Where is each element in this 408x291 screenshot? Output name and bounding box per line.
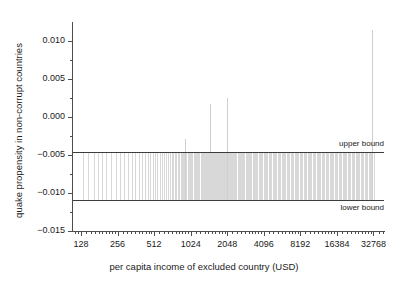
spike-line bbox=[142, 152, 143, 200]
x-minor-tick-mark bbox=[127, 231, 128, 234]
x-minor-tick-mark bbox=[86, 231, 87, 234]
spike-line bbox=[83, 152, 84, 200]
spike-line bbox=[128, 152, 129, 200]
x-minor-tick-mark bbox=[91, 231, 92, 234]
x-tick-mark bbox=[373, 231, 374, 236]
x-minor-tick-mark bbox=[176, 231, 177, 234]
x-minor-tick-mark bbox=[225, 231, 226, 234]
y-tick-label: −0.010 bbox=[37, 187, 65, 197]
x-tick-mark bbox=[227, 231, 228, 236]
x-minor-tick-mark bbox=[358, 231, 359, 234]
x-minor-tick-mark bbox=[135, 231, 136, 234]
x-minor-tick-mark bbox=[95, 231, 96, 234]
upper-bound-label: upper bound bbox=[339, 139, 384, 148]
x-minor-tick-mark bbox=[325, 231, 326, 234]
x-minor-tick-mark bbox=[102, 231, 103, 234]
spike-line bbox=[162, 152, 163, 200]
x-minor-tick-mark bbox=[159, 231, 160, 234]
x-minor-tick-mark bbox=[314, 231, 315, 234]
spike-line bbox=[164, 152, 165, 200]
x-minor-tick-mark bbox=[200, 231, 201, 234]
x-minor-tick-mark bbox=[379, 231, 380, 234]
lower-bound-line bbox=[73, 200, 384, 201]
x-minor-tick-mark bbox=[334, 231, 335, 234]
x-tick-mark bbox=[154, 231, 155, 236]
spike-line bbox=[148, 152, 149, 200]
spike-line bbox=[106, 152, 107, 200]
spike-line bbox=[155, 152, 156, 200]
x-axis-title: per capita income of excluded country (U… bbox=[0, 261, 408, 272]
x-minor-tick-mark bbox=[146, 231, 147, 234]
spike-line bbox=[160, 152, 161, 200]
x-minor-tick-mark bbox=[351, 231, 352, 234]
spike-line bbox=[132, 152, 133, 200]
x-minor-tick-mark bbox=[285, 231, 286, 234]
x-minor-tick-mark bbox=[232, 231, 233, 234]
x-minor-tick-mark bbox=[282, 231, 283, 234]
x-minor-tick-mark bbox=[289, 231, 290, 234]
x-minor-tick-mark bbox=[245, 231, 246, 234]
x-minor-tick-mark bbox=[149, 231, 150, 234]
spike-line bbox=[168, 152, 169, 200]
x-minor-tick-mark bbox=[212, 231, 213, 234]
lower-bound-label: lower bound bbox=[340, 203, 384, 212]
x-minor-tick-mark bbox=[383, 231, 384, 234]
x-tick-label: 256 bbox=[110, 239, 125, 249]
x-minor-tick-mark bbox=[188, 231, 189, 234]
x-minor-tick-mark bbox=[109, 231, 110, 234]
spike-line bbox=[139, 152, 140, 200]
x-minor-tick-mark bbox=[208, 231, 209, 234]
y-tick-label: 0.000 bbox=[42, 111, 65, 121]
x-minor-tick-mark bbox=[310, 231, 311, 234]
x-minor-tick-mark bbox=[292, 231, 293, 234]
x-minor-tick-mark bbox=[347, 231, 348, 234]
x-tick-label: 512 bbox=[147, 239, 162, 249]
x-minor-tick-mark bbox=[179, 231, 180, 234]
y-tick-label: 0.005 bbox=[42, 73, 65, 83]
x-tick-label: 1024 bbox=[181, 239, 201, 249]
x-tick-mark bbox=[118, 231, 119, 236]
x-minor-tick-mark bbox=[115, 231, 116, 234]
x-tick-label: 4096 bbox=[254, 239, 274, 249]
x-minor-tick-mark bbox=[252, 231, 253, 234]
y-tick-label: 0.010 bbox=[42, 35, 65, 45]
x-minor-tick-mark bbox=[305, 231, 306, 234]
x-minor-tick-mark bbox=[112, 231, 113, 234]
x-minor-tick-mark bbox=[172, 231, 173, 234]
x-minor-tick-mark bbox=[269, 231, 270, 234]
spike-line bbox=[120, 152, 121, 200]
x-minor-tick-mark bbox=[123, 231, 124, 234]
spike-line bbox=[94, 152, 95, 200]
x-minor-tick-mark bbox=[368, 231, 369, 234]
spike-line bbox=[145, 152, 146, 200]
x-tick-label: 32768 bbox=[361, 239, 386, 249]
x-minor-tick-mark bbox=[196, 231, 197, 234]
x-minor-tick-mark bbox=[328, 231, 329, 234]
x-minor-tick-mark bbox=[331, 231, 332, 234]
x-minor-tick-mark bbox=[295, 231, 296, 234]
x-minor-tick-mark bbox=[255, 231, 256, 234]
x-minor-tick-mark bbox=[298, 231, 299, 234]
x-minor-tick-mark bbox=[261, 231, 262, 234]
x-minor-tick-mark bbox=[355, 231, 356, 234]
x-tick-mark bbox=[81, 231, 82, 236]
x-minor-tick-mark bbox=[318, 231, 319, 234]
x-minor-tick-mark bbox=[182, 231, 183, 234]
x-minor-tick-mark bbox=[371, 231, 372, 234]
x-minor-tick-mark bbox=[273, 231, 274, 234]
x-minor-tick-mark bbox=[215, 231, 216, 234]
spike-line bbox=[166, 152, 167, 200]
x-tick-mark bbox=[264, 231, 265, 236]
spike-line bbox=[116, 152, 117, 200]
y-tick-label: −0.005 bbox=[37, 149, 65, 159]
x-minor-tick-mark bbox=[75, 231, 76, 234]
x-tick-mark bbox=[191, 231, 192, 236]
x-minor-tick-mark bbox=[258, 231, 259, 234]
x-minor-tick-mark bbox=[222, 231, 223, 234]
chart-figure: 0.0100.0050.000−0.005−0.010−0.015 128256… bbox=[0, 0, 408, 291]
spike-line bbox=[98, 152, 99, 200]
spike-line bbox=[135, 152, 136, 200]
x-tick-mark bbox=[300, 231, 301, 236]
upper-bound-line bbox=[73, 152, 384, 153]
x-tick-label: 128 bbox=[73, 239, 88, 249]
